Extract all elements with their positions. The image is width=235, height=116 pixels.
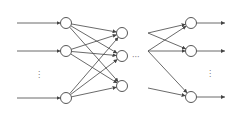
edge-in2-h1: [70, 59, 117, 94]
edge-in0-h0: [71, 24, 116, 32]
edge-in2-h0: [70, 37, 119, 94]
output-vertical-ellipsis: ⋮: [206, 69, 214, 78]
output-node-1: [186, 46, 197, 57]
input-node-2: [61, 93, 72, 104]
edge-partial-s1-o2: [148, 51, 187, 93]
hidden-node-2: [117, 81, 128, 92]
hidden-node-0: [117, 28, 128, 39]
edge-partial-s0-o1: [148, 33, 186, 49]
edge-partial-s1-o0: [148, 26, 186, 51]
edge-in0-h1: [71, 26, 118, 53]
edge-partial-s0-o0: [148, 24, 186, 33]
neural-network-diagram: ⋮ ··· ⋮: [0, 0, 235, 116]
output-node-0: [186, 18, 197, 29]
output-node-2: [186, 92, 197, 103]
input-node-0: [61, 18, 72, 29]
hidden-node-1: [117, 51, 128, 62]
edge-in0-h2: [70, 27, 119, 82]
hidden-horizontal-ellipsis: ···: [132, 53, 140, 62]
edge-in1-h2: [71, 54, 118, 83]
input-node-1: [61, 46, 72, 57]
edge-partial-s2-o2: [148, 88, 186, 96]
input-vertical-ellipsis: ⋮: [35, 70, 43, 79]
